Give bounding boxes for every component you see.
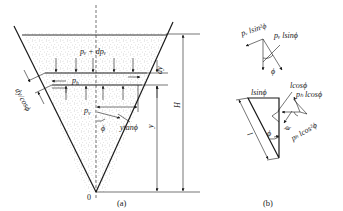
label-dy-cos: dy/cosϕ (13, 87, 32, 113)
label-lcos: lcosϕ (290, 81, 307, 90)
label-pv-lsin2: pᵥ lsin²ϕ (239, 21, 268, 38)
label-pv-dpv: pᵥ + dpᵥ (79, 47, 106, 56)
label-phi-a: ϕ (101, 124, 105, 133)
label-origin: 0 (87, 193, 91, 202)
label-lsin: lsinϕ (251, 88, 267, 97)
label-phi-top: ϕ (271, 67, 275, 76)
force-ph-lcos2 (284, 111, 292, 123)
caption-b: (b) (263, 198, 273, 208)
caption-a: (a) (117, 198, 127, 208)
label-ph-lcos2: pₕ lcos²ϕ (289, 121, 319, 144)
phi-arc-mid (270, 137, 279, 139)
dycos-dim-a (24, 70, 30, 82)
right-angle-mark (272, 111, 279, 122)
label-phi-mid: ϕ (267, 129, 271, 138)
l-dim-ext-top (236, 98, 248, 100)
figure-b: pᵥ lsin²ϕ pᵥ lsinϕ ϕ ϕ lsinϕ lcosϕ l pₕ … (236, 21, 322, 208)
force-pv-lsin2 (246, 39, 263, 46)
force-ph-lcos (294, 97, 300, 112)
granular-fill (23, 33, 166, 211)
label-dy: dy (155, 66, 164, 74)
l-dim-ext-bot (267, 158, 279, 160)
label-ph-lcos: pₕ lcosϕ (295, 90, 322, 99)
force-diag-helper (263, 45, 280, 62)
label-ytan: ytanϕ (119, 123, 138, 132)
force-pv-lsin (263, 39, 282, 70)
hopper-stress-diagram: dy/cosϕ dy y H ytanϕ ϕ pv ph pᵥ + dpᵥ 0 … (0, 0, 343, 211)
label-pv-lsin: pᵥ lsinϕ (273, 31, 298, 40)
label-l: l (245, 131, 254, 138)
phi-mid-arrow (274, 136, 279, 137)
dycos-dim-b (38, 92, 44, 104)
lcos-leader (278, 92, 292, 111)
phi-arc-right (294, 112, 298, 116)
label-y: y (146, 124, 155, 129)
label-phi-small: ϕ (283, 125, 293, 132)
label-H: H (173, 101, 182, 109)
granular-fill-mask (0, 192, 343, 211)
